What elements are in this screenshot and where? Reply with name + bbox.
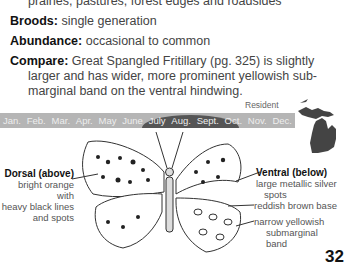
- ventral-note-base: reddish brown base: [254, 200, 337, 211]
- dorsal-callout: Dorsal (above) bright orange with heavy …: [0, 168, 74, 223]
- ventral-line1: large metallic silver: [256, 178, 337, 189]
- dorsal-line2: heavy black lines: [2, 201, 74, 212]
- dorsal-line3: and spots: [33, 212, 74, 223]
- dorsal-line1: bright orange with: [18, 179, 74, 201]
- ventral-note-band2: submarginal band: [266, 227, 341, 249]
- ventral-title: Ventral (below): [256, 167, 327, 178]
- dorsal-title: Dorsal (above): [5, 168, 74, 179]
- ventral-note-band1: narrow yellowish: [254, 216, 324, 227]
- page-number: 32: [325, 247, 344, 267]
- ventral-callout: Ventral (below) large metallic silver sp…: [256, 167, 337, 200]
- ventral-line2: spots: [256, 189, 287, 200]
